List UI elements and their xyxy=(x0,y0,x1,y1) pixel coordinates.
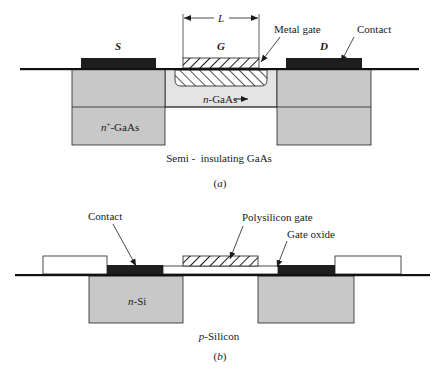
gate-oxide-layer xyxy=(163,266,278,274)
contact-label-b: Contact xyxy=(88,210,122,222)
gate-label: G xyxy=(217,40,225,52)
semi-insulating-gaas-label: Semi - insulating GaAs xyxy=(166,152,272,164)
polysilicon-gate xyxy=(183,256,258,266)
right-field-oxide xyxy=(335,256,401,274)
figure-a-mesfet: L S G D Metal gate Contact n-GaAs n+-GaA… xyxy=(20,12,419,190)
gate-oxide-label: Gate oxide xyxy=(287,228,335,240)
left-contact-b xyxy=(107,265,163,274)
metal-gate-pointer xyxy=(261,37,280,62)
contact-label-a: Contact xyxy=(357,23,391,35)
p-silicon-label: p-Silicon xyxy=(198,330,240,342)
n-si-label: n-Si xyxy=(128,295,146,307)
left-field-oxide xyxy=(43,256,107,274)
metal-gate xyxy=(183,58,259,68)
dimension-label-l: L xyxy=(217,12,224,24)
surface-line-b xyxy=(15,274,430,276)
drain-label: D xyxy=(319,40,328,52)
figure-b-mosfet: Contact Polysilicon gate Gate oxide n-Si… xyxy=(15,210,430,363)
right-contact-b xyxy=(278,265,335,274)
depletion-region xyxy=(175,70,267,86)
mesfet-mosfet-cross-section-diagram: L S G D Metal gate Contact n-GaAs n+-GaA… xyxy=(0,0,439,380)
caption-b: (b) xyxy=(214,350,227,363)
n-gaas-channel-label: n-GaAs xyxy=(203,93,237,105)
caption-a: (a) xyxy=(214,177,227,190)
source-label: S xyxy=(115,40,121,52)
polysilicon-gate-pointer xyxy=(230,226,243,259)
gate-oxide-pointer xyxy=(277,241,287,267)
polysilicon-gate-label: Polysilicon gate xyxy=(242,211,313,223)
metal-gate-label: Metal gate xyxy=(274,23,321,35)
right-n-si-region xyxy=(258,276,354,323)
source-contact xyxy=(81,58,156,68)
contact-pointer-b xyxy=(113,224,136,266)
drain-contact xyxy=(286,58,362,68)
